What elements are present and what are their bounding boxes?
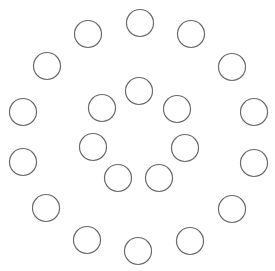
outer-ring-circle-6 [177,228,204,255]
concentric-circle-diagram [0,0,275,271]
outer-ring-circle-13 [75,21,102,48]
outer-ring-circle-10 [10,149,37,176]
inner-ring-circle-4 [105,165,132,192]
outer-ring-circle-0 [127,10,154,37]
inner-ring-circle-6 [89,95,116,122]
inner-ring-circle-0 [126,78,153,105]
outer-ring-circle-2 [219,54,246,81]
inner-ring-circle-3 [146,165,173,192]
outer-ring [10,10,268,265]
outer-ring-circle-3 [241,99,268,126]
diagram-svg [0,0,275,271]
inner-ring-circle-1 [164,96,191,123]
outer-ring-circle-1 [178,21,205,48]
outer-ring-circle-4 [241,150,268,177]
outer-ring-circle-5 [219,196,246,223]
inner-ring-circle-5 [80,134,107,161]
outer-ring-circle-7 [125,238,152,265]
outer-ring-circle-11 [10,99,37,126]
inner-ring [80,78,199,192]
inner-ring-circle-2 [172,135,199,162]
outer-ring-circle-12 [34,53,61,80]
outer-ring-circle-8 [74,227,101,254]
outer-ring-circle-9 [33,195,60,222]
